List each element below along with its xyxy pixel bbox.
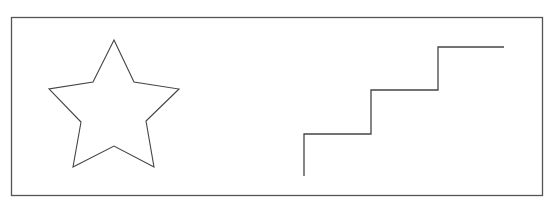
staircase-line — [304, 47, 504, 176]
diagram-canvas — [0, 0, 552, 207]
frame-border — [12, 18, 543, 196]
star-shape — [49, 40, 179, 167]
